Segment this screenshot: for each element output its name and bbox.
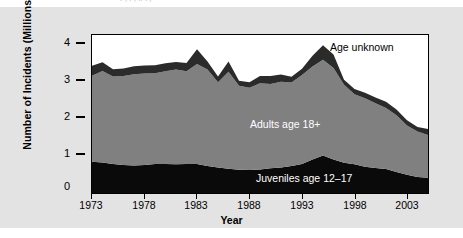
figure-panel: Number of Incidents (Millions) Year 4 3 … [0, 7, 463, 228]
series-label-age-unknown: Age unknown [330, 41, 394, 53]
clipped-header-strip: r , . , .. . , [0, 0, 463, 7]
y-tick-mark-3 [76, 79, 85, 81]
x-tick-label-1973: 1973 [69, 199, 113, 211]
clipped-header-text: r , . , .. . , [120, 0, 152, 3]
y-axis-title: Number of Incidents (Millions) [21, 0, 33, 158]
y-tick-mark-1 [76, 153, 85, 155]
y-tick-mark-2 [76, 116, 85, 118]
x-axis-title: Year [0, 214, 463, 226]
series-label-adults: Adults age 18+ [250, 118, 320, 130]
chart-figure: r , . , .. . , Number of Incidents (Mill… [0, 0, 463, 238]
stacked-area-svg [92, 35, 428, 193]
x-tick-label-1983: 1983 [174, 199, 218, 211]
x-tick-label-1993: 1993 [280, 199, 324, 211]
plot-area [91, 34, 429, 194]
y-tick-label-4: 4 [48, 36, 70, 48]
x-tick-label-2003: 2003 [385, 199, 429, 211]
y-tick-label-3: 3 [48, 73, 70, 85]
x-tick-label-1988: 1988 [227, 199, 271, 211]
x-tick-label-1978: 1978 [122, 199, 166, 211]
y-tick-label-2: 2 [48, 110, 70, 122]
y-tick-label-1: 1 [48, 147, 70, 159]
y-tick-label-0: 0 [48, 180, 70, 192]
x-tick-label-1998: 1998 [333, 199, 377, 211]
series-label-juveniles: Juveniles age 12–17 [256, 172, 352, 184]
y-tick-mark-4 [76, 42, 85, 44]
